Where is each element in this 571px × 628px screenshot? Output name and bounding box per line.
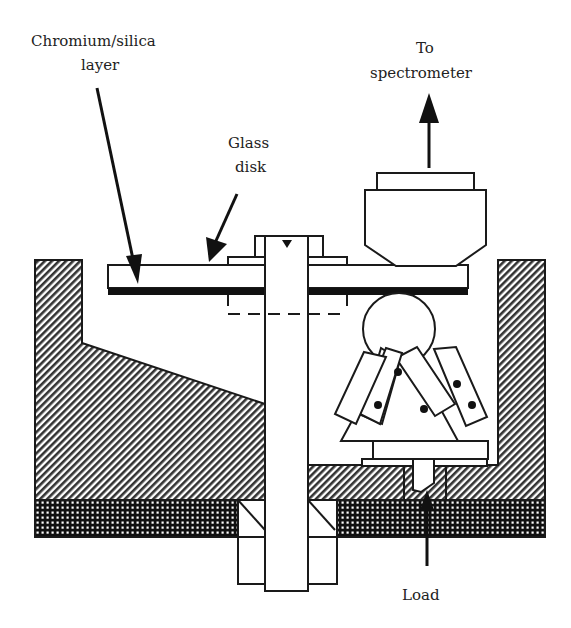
- holder-dot: [374, 401, 382, 409]
- label-to: To: [416, 39, 434, 57]
- label-chromium-layer: layer: [81, 56, 120, 74]
- spectrometer-arrow: [419, 93, 439, 168]
- chromium-pointer-arrow: [97, 88, 142, 284]
- holder-dot: [468, 401, 476, 409]
- objective-lens: [365, 173, 486, 266]
- label-disk: disk: [235, 158, 267, 176]
- holder-dot: [394, 368, 402, 376]
- housing-hatched: [35, 260, 265, 500]
- label-spectrometer: spectrometer: [370, 64, 473, 82]
- bolt-shaft: [265, 236, 308, 591]
- glass-pointer-arrow: [206, 194, 237, 262]
- label-glass: Glass: [228, 134, 269, 152]
- label-chromium-silica: Chromium/silica: [31, 32, 156, 50]
- apparatus-diagram: Chromium/silica layer Glass disk To spec…: [0, 0, 571, 628]
- label-load: Load: [402, 586, 440, 604]
- holder-dot: [420, 405, 428, 413]
- holder-dot: [453, 380, 461, 388]
